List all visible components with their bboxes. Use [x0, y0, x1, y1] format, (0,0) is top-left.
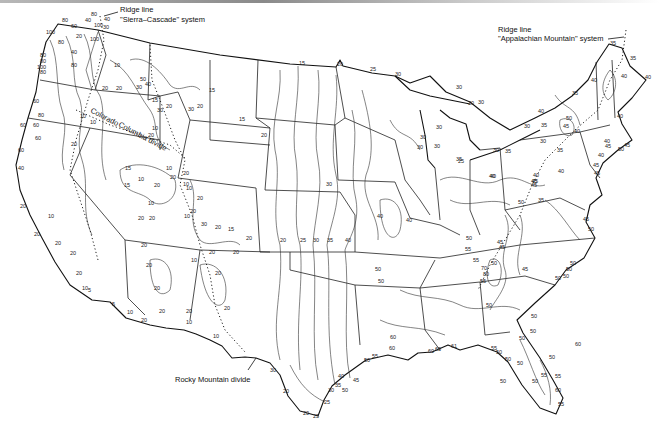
contour-value-label: 30 — [436, 124, 442, 130]
contour-value-label: 50 — [555, 275, 561, 281]
contour-value-label: 15 — [209, 87, 215, 93]
contour-value-label: 40 — [18, 165, 24, 171]
sierra-cascade-label-line2: "Sierra–Cascade" system — [120, 15, 205, 24]
contour-value-label: 35 — [505, 148, 511, 154]
contour-value-label: 40 — [406, 217, 412, 223]
contour-value-label: 5 — [88, 287, 91, 293]
contour-value-label: 50 — [570, 260, 576, 266]
contour-value-label: 50 — [375, 266, 381, 272]
contour-value-label: 15 — [228, 226, 234, 232]
contour-value-label: 50 — [378, 278, 384, 284]
contour-lines — [50, 32, 616, 405]
contour-value-label: 20 — [70, 250, 76, 256]
contour-value-label: 55 — [465, 246, 471, 252]
contour-value-label: 10 — [48, 213, 54, 219]
contour-value-label: 61 — [451, 343, 457, 349]
contour-value-label: 40 — [85, 17, 91, 23]
contour-value-label: 20 — [76, 33, 82, 39]
contour-value-label: 40 — [558, 168, 564, 174]
contour-value-label: 35 — [327, 237, 333, 243]
contour-value-label: 20 — [183, 170, 189, 176]
contour-value-label: 20 — [55, 240, 61, 246]
contour-value-label: 30 — [328, 387, 334, 393]
contour-value-label: 50 — [486, 302, 492, 308]
contour-value-label: 40 — [145, 81, 151, 87]
contour-value-label: 30 — [468, 100, 474, 106]
contour-value-label: 20 — [116, 85, 122, 91]
contour-value-label: 35 — [335, 382, 341, 388]
contour-value-label: 40 — [489, 173, 495, 179]
appalachian-label-line2: "Appalachian Mountain" system — [498, 34, 603, 43]
rocky-mountain-divide-label: Rocky Mountain divide — [175, 375, 250, 384]
contour-value-label: 20 — [280, 237, 286, 243]
contour-value-labels: 8060401004080301008020100808010080408010… — [18, 11, 651, 419]
contour-value-label: 20 — [148, 132, 154, 138]
contour-value-label: 20 — [20, 203, 26, 209]
contour-value-label: 40 — [574, 128, 580, 134]
contour-value-label: 80 — [40, 69, 46, 75]
contour-value-label: 50 — [364, 357, 370, 363]
contour-value-label: 20 — [337, 61, 343, 67]
contour-value-label: 50 — [588, 226, 594, 232]
contour-value-label: 30 — [456, 84, 462, 90]
contour-value-label: 55 — [480, 278, 486, 284]
contour-value-label: 20 — [190, 208, 196, 214]
contour-value-label: 20 — [138, 215, 144, 221]
contour-value-label: 50 — [518, 199, 524, 205]
contour-value-label: 20 — [166, 103, 172, 109]
contour-value-label: 50 — [566, 115, 572, 121]
contour-value-label: 100 — [90, 36, 99, 42]
contour-value-label: 40 — [598, 152, 604, 158]
appalachian-arrow — [608, 37, 624, 39]
contour-value-label: 10 — [191, 257, 197, 263]
contour-value-label: 20 — [197, 195, 203, 201]
contour-value-label: 40 — [645, 74, 651, 80]
contour-value-label: 15 — [152, 97, 158, 103]
contour-value-label: 100 — [94, 22, 103, 28]
contour-value-label: 40 — [538, 108, 544, 114]
contour-value-label: 10 — [127, 309, 133, 315]
contour-value-label: 60 — [389, 345, 395, 351]
contour-value-label: 20 — [102, 85, 108, 91]
contour-value-label: 20 — [170, 174, 176, 180]
contour-value-label: 10 — [152, 125, 158, 131]
contour-value-label: 30 — [540, 138, 546, 144]
contour-value-label: 30 — [136, 84, 142, 90]
contour-value-label: 80 — [62, 17, 68, 23]
contour-value-label: 45 — [593, 162, 599, 168]
contour-value-label: 50 — [505, 356, 511, 362]
contour-value-label: 40 — [591, 77, 597, 83]
contour-value-label: 15 — [125, 165, 131, 171]
contour-value-label: 40 — [104, 16, 110, 22]
contour-value-label: 30 — [103, 24, 109, 30]
contour-value-label: 45 — [499, 244, 505, 250]
contour-value-label: 60 — [555, 387, 561, 393]
contour-value-label: 40 — [71, 49, 77, 55]
contour-value-label: 60 — [428, 348, 434, 354]
contour-value-label: 35 — [572, 90, 578, 96]
state-boundaries — [28, 30, 615, 350]
contour-value-label: 30 — [201, 221, 207, 227]
great-lakes-shoreline — [395, 76, 540, 168]
contour-value-label: 20 — [141, 242, 147, 248]
contour-value-label: 20 — [283, 388, 289, 394]
contour-value-label: 20 — [76, 270, 82, 276]
appalachian-ridge-line — [478, 30, 626, 290]
contour-value-label: 30 — [420, 134, 426, 140]
contour-value-label: 40 — [345, 237, 351, 243]
sierra-cascade-label-line1: Ridge line — [120, 5, 153, 14]
contour-value-label: 45 — [353, 377, 359, 383]
contour-value-label: 50 — [566, 266, 572, 272]
appalachian-label-line1: Ridge line — [498, 25, 531, 34]
contour-value-label: 55 — [558, 401, 564, 407]
contour-value-label: 50 — [519, 335, 525, 341]
contour-value-label: 20 — [246, 235, 252, 241]
contour-value-label: 15 — [299, 60, 305, 66]
contour-value-label: 55 — [372, 353, 378, 359]
contour-value-label: 35 — [538, 197, 544, 203]
contour-value-label: 20 — [159, 308, 165, 314]
contour-value-label: 55 — [555, 373, 561, 379]
contour-value-label: 40 — [377, 213, 383, 219]
contour-value-label: 20 — [154, 182, 160, 188]
contour-value-label: 10 — [138, 176, 144, 182]
